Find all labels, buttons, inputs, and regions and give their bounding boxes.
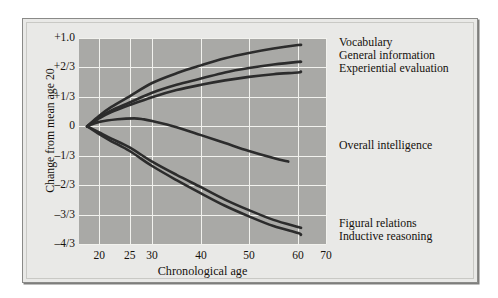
curve-general-information bbox=[87, 62, 301, 127]
x-axis-tick-label: 60 bbox=[292, 250, 304, 262]
legend-label-overall-intelligence: Overall intelligence bbox=[339, 139, 432, 152]
curves-group bbox=[79, 38, 326, 244]
x-axis-tick-label: 70 bbox=[320, 250, 332, 262]
x-axis-tick-labels: 20253040506070 bbox=[79, 248, 326, 264]
y-axis-tick-label: –2/3 bbox=[55, 179, 75, 191]
figure-frame: +1.0+2/3+1/30–1/3–2/3–3/3–4/3 2025304050… bbox=[22, 18, 478, 283]
x-axis-tick-label: 50 bbox=[243, 250, 255, 262]
x-axis-title: Chronological age bbox=[79, 264, 326, 279]
y-axis-title: Change from mean age 20 bbox=[43, 43, 58, 219]
gridline-vertical bbox=[326, 38, 327, 244]
legend-group-middle: Overall intelligence bbox=[339, 139, 432, 152]
plot-area bbox=[79, 38, 326, 244]
legend-group-bottom: Figural relations Inductive reasoning bbox=[339, 217, 432, 243]
y-axis-tick-label: –1/3 bbox=[55, 150, 75, 162]
x-axis-tick-label: 40 bbox=[195, 250, 207, 262]
x-axis-tick-label: 30 bbox=[146, 250, 158, 262]
legend-label-inductive-reasoning: Inductive reasoning bbox=[339, 230, 432, 243]
curve-figural-relations bbox=[87, 126, 301, 228]
x-axis-tick-label: 25 bbox=[124, 250, 136, 262]
y-axis-tick-label: 0 bbox=[69, 120, 75, 132]
x-axis-tick-label: 20 bbox=[94, 250, 106, 262]
legend-label-experiential-evaluation: Experiential evaluation bbox=[339, 62, 449, 75]
gridline-horizontal bbox=[79, 244, 326, 245]
y-axis-tick-label: –4/3 bbox=[55, 238, 75, 250]
legend-group-top: Vocabulary General information Experient… bbox=[339, 36, 449, 76]
y-axis-tick-label: –3/3 bbox=[55, 209, 75, 221]
